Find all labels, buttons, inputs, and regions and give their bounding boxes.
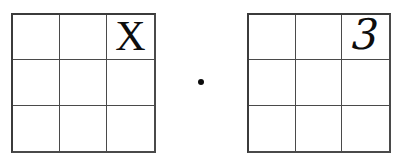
left-grid-cell-r2c3[interactable] [107, 60, 154, 105]
left-grid: X [11, 13, 156, 153]
left-grid-cell-r3c1[interactable] [13, 106, 60, 151]
left-grid-cell-r3c3[interactable] [107, 106, 154, 151]
right-grid-cell-r2c2[interactable] [296, 60, 343, 105]
left-grid-cell-r2c2[interactable] [60, 60, 107, 105]
left-grid-cell-r1c3-value: X [115, 15, 145, 57]
right-grid-cell-r3c1[interactable] [249, 106, 296, 151]
right-grid-cell-r2c3[interactable] [342, 60, 389, 105]
diagram-canvas: X 3 [0, 0, 403, 160]
right-grid-cell-r3c2[interactable] [296, 106, 343, 151]
right-grid-cell-r3c3[interactable] [342, 106, 389, 151]
left-grid-cell-r2c1[interactable] [13, 60, 60, 105]
right-grid-cell-r1c3[interactable]: 3 [342, 15, 389, 60]
left-grid-cell-r1c2[interactable] [60, 15, 107, 60]
right-grid-cell-r2c1[interactable] [249, 60, 296, 105]
right-grid-cell-r1c1[interactable] [249, 15, 296, 60]
left-grid-cell-r1c3[interactable]: X [107, 15, 154, 60]
left-grid-cell-r3c2[interactable] [60, 106, 107, 151]
multiplication-dot-icon [198, 79, 204, 85]
right-grid: 3 [247, 13, 391, 153]
left-grid-cell-r1c1[interactable] [13, 15, 60, 60]
right-grid-cell-r1c2[interactable] [296, 15, 343, 60]
right-grid-cell-r1c3-value: 3 [352, 15, 380, 56]
